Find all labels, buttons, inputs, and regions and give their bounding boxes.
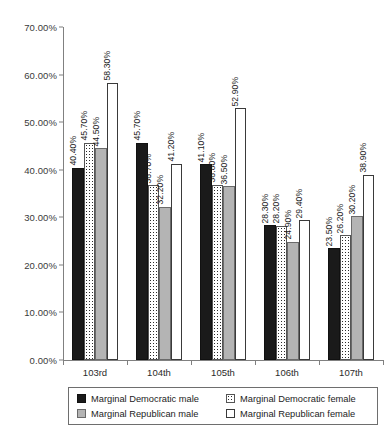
legend-item-label: Marginal Republican male xyxy=(91,409,199,419)
bar-group: 41.10%36.80%36.50%52.90% xyxy=(191,27,255,360)
bar: 30.20% xyxy=(351,216,363,360)
legend-item: Marginal Democratic male xyxy=(77,394,220,404)
legend-swatch-icon xyxy=(77,409,86,418)
bar: 45.70% xyxy=(84,143,96,360)
x-axis-line xyxy=(63,360,384,361)
legend-item: Marginal Republican female xyxy=(226,409,369,419)
bar: 41.10% xyxy=(200,164,212,360)
bar: 58.30% xyxy=(107,83,119,360)
x-axis-tick-mark xyxy=(319,360,320,365)
legend-swatch-icon xyxy=(77,394,86,403)
y-axis-tick-label: 0.00% xyxy=(30,355,63,366)
bar: 32.20% xyxy=(159,207,171,360)
x-axis-tick-mark xyxy=(191,360,192,365)
bar: 24.90% xyxy=(287,242,299,360)
bar-chart: 0.00%10.00%20.00%30.00%40.00%50.00%60.00… xyxy=(0,0,390,431)
x-axis-tick-label: 105th xyxy=(211,367,235,378)
x-axis-tick-label: 104th xyxy=(147,367,171,378)
x-axis-tick-label: 103rd xyxy=(83,367,107,378)
bar: 38.90% xyxy=(363,175,375,360)
legend-item-label: Marginal Republican female xyxy=(240,409,355,419)
bar: 28.30% xyxy=(264,225,276,360)
bar: 36.50% xyxy=(223,186,235,360)
legend-item-label: Marginal Democratic female xyxy=(240,394,356,404)
legend-item: Marginal Democratic female xyxy=(226,394,369,404)
y-axis-tick-label: 70.00% xyxy=(24,22,63,33)
y-axis-tick-label: 40.00% xyxy=(24,164,63,175)
x-axis-tick-mark xyxy=(127,360,128,365)
bar: 41.20% xyxy=(171,164,183,360)
y-axis-tick-label: 10.00% xyxy=(24,307,63,318)
bar: 23.50% xyxy=(328,248,340,360)
bar: 28.20% xyxy=(276,226,288,360)
x-axis-tick-mark xyxy=(255,360,256,365)
legend-swatch-icon xyxy=(226,394,235,403)
legend-item-label: Marginal Democratic male xyxy=(91,394,199,404)
bar: 26.20% xyxy=(340,235,352,360)
x-axis-tick-mark xyxy=(63,360,64,365)
y-axis-tick-label: 60.00% xyxy=(24,69,63,80)
bar: 29.40% xyxy=(299,220,311,360)
plot-area: 0.00%10.00%20.00%30.00%40.00%50.00%60.00… xyxy=(63,27,383,360)
y-axis-tick-label: 30.00% xyxy=(24,212,63,223)
bar-group: 45.70%36.70%32.20%41.20% xyxy=(127,27,191,360)
bar: 36.70% xyxy=(148,185,160,360)
legend-item: Marginal Republican male xyxy=(77,409,220,419)
bar: 40.40% xyxy=(72,168,84,360)
chart-legend: Marginal Democratic maleMarginal Democra… xyxy=(68,387,378,425)
y-axis-tick-label: 20.00% xyxy=(24,259,63,270)
x-axis-tick-mark xyxy=(383,360,384,365)
bar-group: 23.50%26.20%30.20%38.90% xyxy=(319,27,383,360)
bar: 36.80% xyxy=(212,185,224,360)
bar: 44.50% xyxy=(95,148,107,360)
y-axis-tick-label: 50.00% xyxy=(24,117,63,128)
x-axis-tick-label: 107th xyxy=(339,367,363,378)
bar-group: 28.30%28.20%24.90%29.40% xyxy=(255,27,319,360)
bar-group: 40.40%45.70%44.50%58.30% xyxy=(63,27,127,360)
legend-swatch-icon xyxy=(226,409,235,418)
bar: 52.90% xyxy=(235,108,247,360)
x-axis-tick-label: 106th xyxy=(275,367,299,378)
